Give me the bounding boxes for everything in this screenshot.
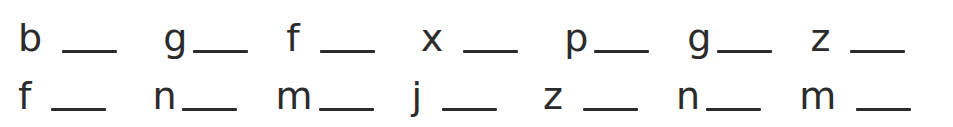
- answer-blank-line[interactable]: [594, 50, 649, 53]
- answer-blank-line[interactable]: [583, 108, 638, 111]
- prompt-letter: j: [412, 74, 423, 118]
- letter-blank-pair: m: [275, 74, 373, 118]
- letter-blank-pair: m: [799, 74, 911, 118]
- prompt-letter: x: [421, 16, 444, 60]
- prompt-letter: m: [275, 74, 312, 118]
- letter-blank-pair: g: [687, 16, 772, 60]
- prompt-letter: n: [676, 74, 700, 118]
- letter-blank-pair: n: [676, 74, 761, 118]
- prompt-letter: z: [810, 16, 830, 60]
- worksheet-page: b g f x p g: [0, 0, 953, 127]
- worksheet-row-bottom: f n m j z n: [0, 66, 953, 118]
- worksheet-row-top: b g f x p g: [0, 8, 953, 60]
- letter-blank-pair: f: [18, 74, 106, 118]
- answer-blank-line[interactable]: [319, 108, 374, 111]
- prompt-letter: g: [163, 16, 187, 60]
- prompt-letter: f: [286, 16, 299, 60]
- letter-blank-pair: x: [421, 16, 519, 60]
- letter-blank-pair: p: [564, 16, 649, 60]
- letter-blank-pair: n: [152, 74, 237, 118]
- answer-blank-line[interactable]: [62, 50, 117, 53]
- prompt-letter: f: [18, 74, 31, 118]
- letter-blank-pair: j: [412, 74, 498, 118]
- prompt-letter: g: [687, 16, 711, 60]
- prompt-letter: z: [543, 74, 563, 118]
- letter-blank-pair: f: [286, 16, 374, 60]
- letter-blank-pair: z: [543, 74, 638, 118]
- letter-blank-pair: z: [810, 16, 905, 60]
- answer-blank-line[interactable]: [193, 50, 248, 53]
- answer-blank-line[interactable]: [717, 50, 772, 53]
- answer-blank-line[interactable]: [856, 108, 911, 111]
- prompt-letter: p: [564, 16, 588, 60]
- answer-blank-line[interactable]: [463, 50, 518, 53]
- answer-blank-line[interactable]: [320, 50, 375, 53]
- answer-blank-line[interactable]: [850, 50, 905, 53]
- letter-blank-pair: g: [163, 16, 248, 60]
- answer-blank-line[interactable]: [51, 108, 106, 111]
- prompt-letter: n: [152, 74, 176, 118]
- prompt-letter: m: [799, 74, 836, 118]
- letter-blank-pair: b: [18, 16, 117, 60]
- answer-blank-line[interactable]: [182, 108, 237, 111]
- prompt-letter: b: [18, 16, 42, 60]
- answer-blank-line[interactable]: [442, 108, 497, 111]
- answer-blank-line[interactable]: [706, 108, 761, 111]
